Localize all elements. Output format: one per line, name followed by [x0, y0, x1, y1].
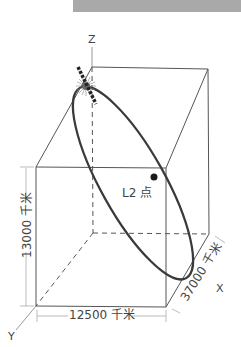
height-dimension-label: 13000 千米 — [21, 192, 33, 258]
satellite-icon — [76, 67, 96, 104]
z-axis-label: Z — [88, 34, 96, 45]
l2-point-label: L2 点 — [122, 187, 152, 199]
x-axis-label: X — [216, 283, 224, 294]
width-dimension-label: 12500 千米 — [69, 309, 135, 321]
orbit-diagram — [0, 0, 241, 347]
l2-point — [151, 174, 158, 181]
y-axis-line — [16, 306, 36, 330]
y-axis-label: Y — [8, 331, 15, 342]
halo-orbit — [52, 72, 214, 294]
